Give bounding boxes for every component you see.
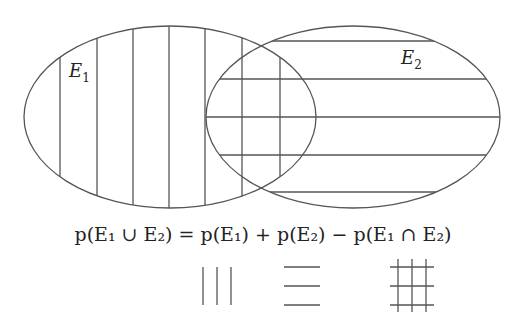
formula-op-1: + [255,223,271,245]
venn-diagram [0,0,526,327]
formula-lhs: p(E₁ ∪ E₂) [75,223,173,245]
e1-label: E1 [69,60,90,85]
formula-term-2: p(E₂) [277,223,325,245]
inclusion-exclusion-formula: p(E₁ ∪ E₂) = p(E₁) + p(E₂) − p(E₁ ∩ E₂) [0,223,526,245]
formula-term-3: p(E₁ ∩ E₂) [354,223,452,245]
e2-label: E2 [401,47,422,72]
formula-equals: = [179,223,195,245]
legend-grid-icon [390,259,434,312]
formula-op-2: − [332,223,348,245]
e1-vertical-hatch [60,0,280,230]
formula-term-1: p(E₁) [201,223,249,245]
legend-vertical-lines-icon [203,267,231,305]
e2-horizontal-hatch [190,41,520,192]
legend-horizontal-lines-icon [284,267,320,305]
